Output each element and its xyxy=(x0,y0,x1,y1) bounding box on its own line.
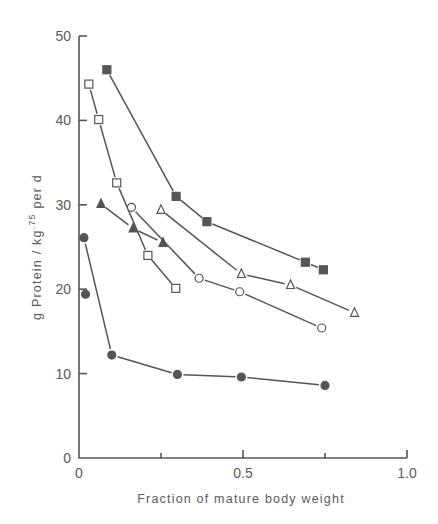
triangle-marker xyxy=(287,280,295,289)
y-tick-label: 0 xyxy=(63,450,71,466)
triangle-marker xyxy=(157,205,165,214)
series-line xyxy=(166,214,237,271)
circle-marker xyxy=(80,234,88,242)
square-marker xyxy=(172,284,180,292)
square-marker xyxy=(85,80,93,88)
square-marker xyxy=(319,266,327,274)
series-line xyxy=(296,287,349,310)
circle-marker xyxy=(127,203,135,211)
series-line xyxy=(183,375,235,377)
series-line xyxy=(247,378,319,385)
square-marker xyxy=(203,218,211,226)
series-open-square xyxy=(85,80,180,292)
y-tick-label: 40 xyxy=(55,112,71,128)
x-axis-label: Fraction of mature body weight xyxy=(137,492,345,506)
series-line xyxy=(118,357,172,373)
circle-marker xyxy=(173,370,181,378)
circle-marker xyxy=(318,324,326,332)
circle-marker xyxy=(108,351,116,359)
series-open-circle xyxy=(127,203,325,332)
square-marker xyxy=(172,192,180,200)
y-tick-label: 20 xyxy=(55,281,71,297)
series-filled-square xyxy=(103,66,327,274)
circle-marker xyxy=(237,373,245,381)
triangle-marker xyxy=(237,269,245,278)
y-tick-label: 30 xyxy=(55,197,71,213)
series-line xyxy=(247,275,284,283)
series-line xyxy=(136,212,195,274)
series-line xyxy=(100,125,115,177)
series-line xyxy=(119,188,145,250)
data-series xyxy=(80,66,359,390)
series-line xyxy=(205,280,234,290)
circle-marker xyxy=(195,274,203,282)
x-tick-label: 1.0 xyxy=(397,465,417,481)
square-marker xyxy=(103,66,111,74)
y-tick-label: 50 xyxy=(55,28,71,44)
triangle-marker xyxy=(159,238,167,247)
series-line xyxy=(110,75,173,191)
y-axis-ticks: 01020304050 xyxy=(55,28,87,466)
axis-lines xyxy=(79,36,407,458)
series-line xyxy=(152,260,172,284)
series-line xyxy=(311,265,318,268)
circle-marker xyxy=(321,381,329,389)
triangle-marker xyxy=(351,308,359,317)
y-axis-title: g Protein / kg.75 per d xyxy=(27,174,44,320)
circle-marker xyxy=(82,290,90,298)
triangle-marker xyxy=(97,199,105,208)
circle-marker xyxy=(236,288,244,296)
series-line xyxy=(106,208,129,225)
x-tick-label: 0.5 xyxy=(233,465,253,481)
square-marker xyxy=(95,116,103,124)
x-axis-ticks: 00.51.0 xyxy=(75,450,417,481)
series-line xyxy=(212,224,299,260)
square-marker xyxy=(113,179,121,187)
square-marker xyxy=(301,258,309,266)
x-tick-label: 0 xyxy=(75,465,83,481)
axes xyxy=(79,36,407,458)
protein-requirement-chart: g Protein / kg.75 per d 00.51.0 01020304… xyxy=(0,0,438,524)
y-axis-label: g Protein / kg.75 per d xyxy=(27,174,44,320)
series-line xyxy=(90,90,97,114)
series-line xyxy=(181,200,203,218)
y-tick-label: 10 xyxy=(55,366,71,382)
series-line xyxy=(245,294,316,325)
square-marker xyxy=(144,251,152,259)
